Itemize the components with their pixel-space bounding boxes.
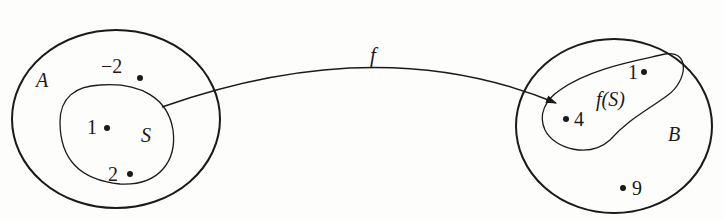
point-dot <box>137 75 143 81</box>
element-2-in-s: 2 <box>108 163 133 185</box>
function-mapping-diagram: A S −2 1 2 f B <box>0 0 724 220</box>
set-a-label: A <box>34 69 49 91</box>
element-1-in-fs: 1 <box>628 61 647 83</box>
element-4-label: 4 <box>574 108 584 130</box>
element-9-in-b: 9 <box>620 177 642 199</box>
element-neg2: −2 <box>101 55 143 81</box>
function-arrow-label: f <box>370 43 379 67</box>
element-2-label: 2 <box>108 163 118 185</box>
point-dot <box>563 116 569 122</box>
image-subset-fs: f(S) <box>542 54 683 150</box>
element-neg2-label: −2 <box>101 55 122 77</box>
point-dot <box>127 171 133 177</box>
element-1-in-s: 1 <box>87 116 110 138</box>
element-1-image-label: 1 <box>628 61 638 83</box>
image-subset-fs-label: f(S) <box>596 88 625 111</box>
element-1-label: 1 <box>87 116 97 138</box>
set-b-label: B <box>668 123 680 145</box>
element-9-label: 9 <box>632 177 642 199</box>
point-dot <box>104 125 110 131</box>
subset-s-label: S <box>141 124 151 146</box>
point-dot <box>641 69 647 75</box>
point-dot <box>620 185 626 191</box>
element-4-in-fs: 4 <box>563 108 584 130</box>
function-arrow: f <box>162 43 556 107</box>
